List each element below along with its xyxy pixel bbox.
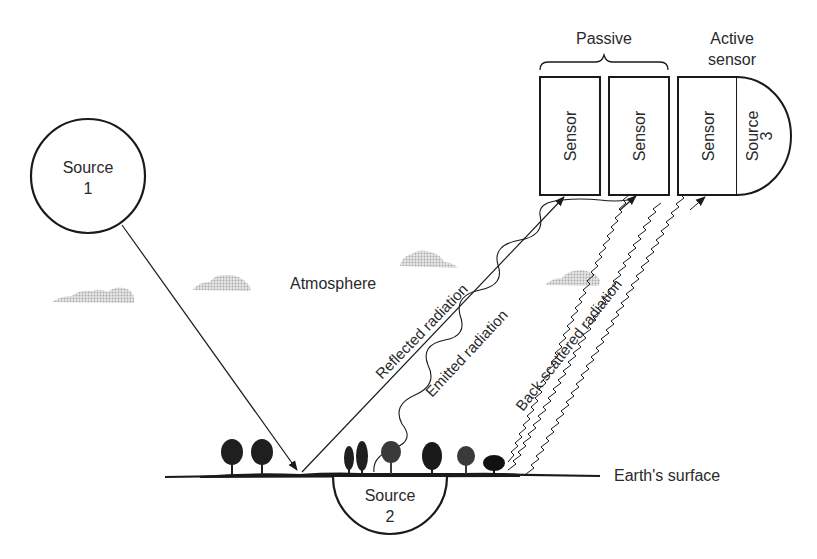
back-scattered-radiation-label: Back-scattered radiation (512, 276, 625, 414)
tree-icon (483, 455, 505, 474)
tree-icon (251, 439, 273, 475)
source-2: Source 2 (333, 477, 447, 534)
passive-sensor-1: Sensor (540, 77, 600, 195)
back-scattered-zigzag (512, 205, 700, 465)
incident-radiation-arrow (122, 225, 297, 470)
source-1: Source 1 (31, 119, 145, 233)
sensor-2-label: Sensor (631, 110, 648, 161)
passive-sensor-2: Sensor (609, 77, 669, 195)
active-sensor-label-line1: Active (710, 30, 754, 47)
reflected-radiation-arrow (302, 197, 564, 472)
cloud-icon (52, 288, 134, 304)
cloud-icon (400, 250, 458, 268)
sensor-1-label: Sensor (562, 110, 579, 161)
tree-icon (381, 441, 401, 474)
tree-icon (221, 439, 243, 475)
tree-icon (422, 442, 442, 474)
passive-brace (540, 55, 668, 70)
cloud-icon (193, 275, 251, 291)
source-2-number: 2 (386, 508, 395, 525)
earth-surface-label: Earth's surface (614, 467, 720, 484)
tree-icon (356, 441, 368, 474)
active-sensor: Sensor Source 3 (678, 77, 791, 195)
source-2-title: Source (365, 487, 416, 504)
active-sensor-label-line2: sensor (708, 51, 757, 68)
source-3-number: 3 (758, 131, 775, 140)
remote-sensing-diagram: Source 1 Atmosphere Reflected radiation … (0, 0, 817, 559)
source-1-number: 1 (84, 180, 93, 197)
passive-label: Passive (576, 30, 632, 47)
tree-icon (344, 446, 354, 474)
sensor-3-label: Sensor (700, 110, 717, 161)
emitted-arrowhead-icon (620, 196, 636, 210)
tree-icon (457, 446, 475, 474)
source-1-title: Source (63, 159, 114, 176)
atmosphere-label: Atmosphere (290, 275, 376, 292)
